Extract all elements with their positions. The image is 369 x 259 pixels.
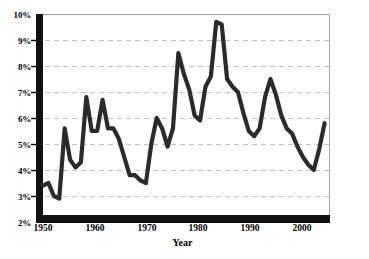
chart-figure: 10% 9% 8% 7% 6% 5% 4% 3% 2% 1950 1960 19… (0, 0, 369, 259)
x-axis-spine (36, 215, 330, 223)
plot-area (0, 0, 369, 259)
y-axis-spine (36, 14, 43, 222)
